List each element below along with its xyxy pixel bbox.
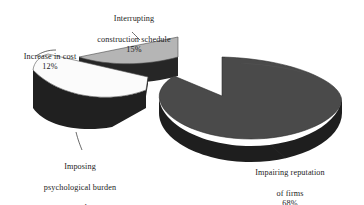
- pie-chart-graphic: [0, 0, 364, 205]
- pie-chart: Interrupting construction schedule 15% I…: [0, 0, 364, 205]
- leader-line-imposing: [76, 132, 82, 150]
- pie-slice-impairing-top: [159, 57, 341, 139]
- leader-line-interrupting: [132, 32, 140, 40]
- pie-slice-impairing: [159, 57, 342, 162]
- pie-slice-interrupting-top: [79, 37, 178, 64]
